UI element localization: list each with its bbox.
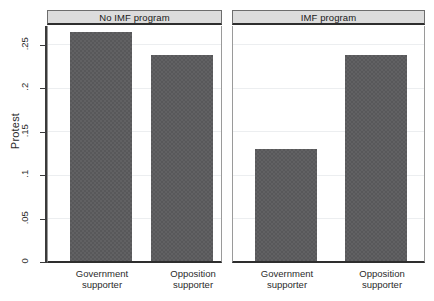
x-label-opposition-supporter-right: Opposition supporter bbox=[330, 268, 434, 290]
y-axis-tick-label: .15 bbox=[12, 126, 38, 136]
panel-no-imf-program: No IMF program bbox=[47, 10, 222, 263]
x-label-government-supporter-right: Government supporter bbox=[232, 268, 342, 290]
plot-area-right bbox=[232, 26, 425, 263]
y-axis-tick bbox=[40, 262, 46, 263]
y-axis-tick-label: .1 bbox=[12, 169, 38, 179]
x-label-opposition-supporter-left: Opposition supporter bbox=[141, 268, 245, 290]
y-axis-tick bbox=[40, 88, 46, 89]
y-axis-tick-label: .05 bbox=[12, 213, 38, 223]
y-axis-tick-label: .2 bbox=[12, 82, 38, 92]
y-axis-tick bbox=[40, 175, 46, 176]
x-label-line1: Opposition bbox=[330, 268, 434, 279]
plot-area-left bbox=[47, 26, 222, 263]
panel-title-left: No IMF program bbox=[47, 10, 222, 25]
panel-imf-program: IMF program bbox=[232, 10, 425, 263]
x-label-line2: supporter bbox=[141, 279, 245, 290]
x-label-line1: Opposition bbox=[141, 268, 245, 279]
x-label-line2: supporter bbox=[330, 279, 434, 290]
y-axis-tick-label: .25 bbox=[12, 39, 38, 49]
x-label-line1: Government bbox=[232, 268, 342, 279]
x-label-line2: supporter bbox=[232, 279, 342, 290]
bar-government-supporter-imf[interactable] bbox=[255, 149, 317, 261]
bar-opposition-supporter-no-imf[interactable] bbox=[151, 55, 213, 262]
y-axis-tick bbox=[40, 132, 46, 133]
bar-government-supporter-no-imf[interactable] bbox=[70, 32, 132, 261]
y-axis-tick bbox=[40, 45, 46, 46]
y-axis-tick-label: 0 bbox=[12, 256, 38, 266]
y-axis-tick bbox=[40, 219, 46, 220]
bar-opposition-supporter-imf[interactable] bbox=[345, 55, 407, 261]
chart-figure: Protest 0.05.1.15.2.25 No IMF program IM… bbox=[0, 0, 434, 301]
panel-title-right: IMF program bbox=[232, 10, 425, 25]
gridline bbox=[233, 44, 424, 45]
